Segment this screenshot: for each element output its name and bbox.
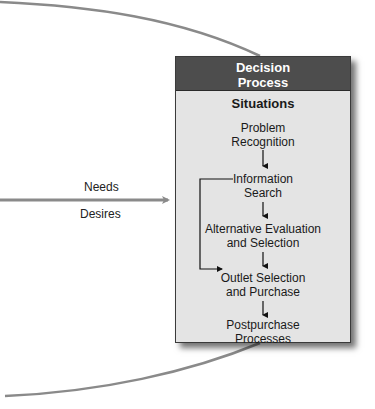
flow-arrows (0, 0, 375, 409)
feedback-bracket (200, 179, 233, 269)
